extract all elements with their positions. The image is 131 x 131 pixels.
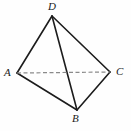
vertex-label-B: B xyxy=(72,113,79,124)
vertex-label-C: C xyxy=(116,66,123,77)
vertex-label-D: D xyxy=(48,1,56,12)
edge-AC-hidden xyxy=(17,72,110,73)
edge-DB xyxy=(52,16,77,110)
tetrahedron-svg xyxy=(0,0,131,131)
tetrahedron-figure: D A C B xyxy=(0,0,131,131)
edge-DC xyxy=(52,16,110,72)
edge-DA xyxy=(17,16,52,73)
vertex-label-A: A xyxy=(4,67,11,78)
edge-BC xyxy=(77,72,110,110)
